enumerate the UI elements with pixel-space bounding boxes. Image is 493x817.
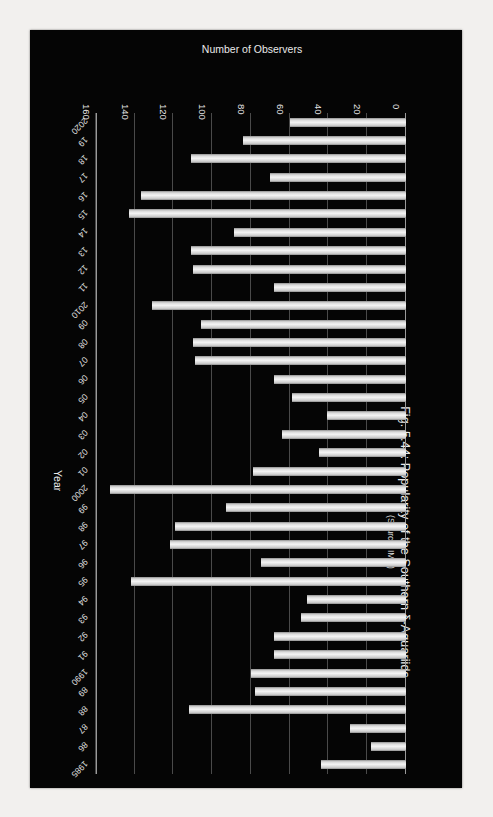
- year-tick-label: 14: [76, 226, 90, 240]
- bar: [253, 467, 406, 476]
- year-tick-label: 02: [76, 447, 90, 461]
- year-tick-label: 17: [76, 171, 90, 185]
- bar: [274, 632, 406, 641]
- bar: [327, 411, 406, 420]
- bar: [193, 338, 406, 347]
- plot-area: [96, 113, 406, 774]
- year-tick-label: 13: [76, 245, 90, 259]
- bar: [131, 577, 406, 586]
- year-tick-label: 93: [76, 612, 90, 626]
- year-tick-label: 06: [76, 373, 90, 387]
- year-tick-label: 18: [76, 153, 90, 167]
- bar: [274, 650, 406, 659]
- value-tick-label: 40: [314, 104, 325, 115]
- bar: [191, 154, 406, 163]
- year-tick-label: 95: [76, 575, 90, 589]
- bar: [292, 393, 406, 402]
- bar: [321, 760, 406, 769]
- value-tick-label: 120: [159, 104, 170, 120]
- rotated-figure-wrapper: Fig. 5.44: Popularity of the Southern δ-…: [0, 0, 493, 817]
- year-tick-label: 05: [76, 392, 90, 406]
- year-tick-label: 07: [76, 355, 90, 369]
- chart-figure: Fig. 5.44: Popularity of the Southern δ-…: [30, 30, 462, 788]
- year-tick-label: 1985: [69, 759, 90, 780]
- bar: [243, 136, 406, 145]
- year-tick-label: 98: [76, 520, 90, 534]
- year-tick-label: 1990: [69, 667, 90, 688]
- value-tick-label: 80: [236, 104, 247, 115]
- bar: [274, 283, 406, 292]
- bar: [270, 173, 406, 182]
- figure-page: Fig. 5.44: Popularity of the Southern δ-…: [0, 0, 493, 817]
- value-tick-label: 20: [352, 104, 363, 115]
- year-tick-label: 87: [76, 722, 90, 736]
- year-tick-label: 97: [76, 538, 90, 552]
- year-tick-label: 15: [76, 208, 90, 222]
- year-tick-label: 94: [76, 594, 90, 608]
- year-tick-label: 03: [76, 428, 90, 442]
- bar: [191, 246, 406, 255]
- year-tick-label: 16: [76, 190, 90, 204]
- bar: [261, 558, 406, 567]
- bar: [175, 522, 406, 531]
- bar: [234, 228, 406, 237]
- bar: [350, 724, 406, 733]
- bar: [110, 485, 406, 494]
- bar: [301, 613, 406, 622]
- bar: [189, 705, 406, 714]
- year-tick-label: 11: [77, 281, 90, 294]
- bar: [193, 265, 406, 274]
- bar: [319, 448, 406, 457]
- bar: [201, 320, 406, 329]
- bar: [274, 375, 406, 384]
- value-tick-label: 140: [120, 104, 131, 120]
- year-tick-label: 09: [76, 318, 90, 332]
- bar: [251, 669, 406, 678]
- year-tick-label: 2010: [69, 300, 90, 321]
- bar: [290, 118, 406, 127]
- bar: [195, 356, 406, 365]
- bar: [371, 742, 406, 751]
- bar: [141, 191, 406, 200]
- year-tick-label: 88: [76, 704, 90, 718]
- year-tick-label: 2000: [69, 483, 90, 504]
- bar: [152, 301, 406, 310]
- bar: [255, 687, 406, 696]
- bar: [170, 540, 406, 549]
- year-tick-label: 92: [76, 630, 90, 644]
- value-tick-label: 100: [197, 104, 208, 120]
- year-tick-label: 04: [76, 410, 90, 424]
- year-tick-label: 08: [76, 336, 90, 350]
- year-tick-label: 01: [76, 465, 90, 479]
- bar: [282, 430, 406, 439]
- value-axis-line: [96, 113, 97, 774]
- bar: [226, 503, 406, 512]
- bar: [307, 595, 406, 604]
- year-tick-label: 2020: [69, 116, 90, 137]
- year-tick-label: 89: [76, 685, 90, 699]
- value-tick-label: 60: [275, 104, 286, 115]
- bar: [129, 210, 406, 219]
- year-tick-label: 12: [76, 263, 90, 277]
- year-tick-label: 96: [76, 557, 90, 571]
- year-tick-label: 19: [76, 134, 90, 148]
- value-tick-label: 0: [391, 104, 402, 109]
- category-axis-label: Year: [52, 470, 64, 491]
- year-tick-label: 91: [76, 649, 90, 663]
- year-tick-label: 99: [76, 502, 90, 516]
- value-axis-label: Number of Observers: [152, 43, 352, 55]
- year-tick-label: 86: [76, 740, 90, 754]
